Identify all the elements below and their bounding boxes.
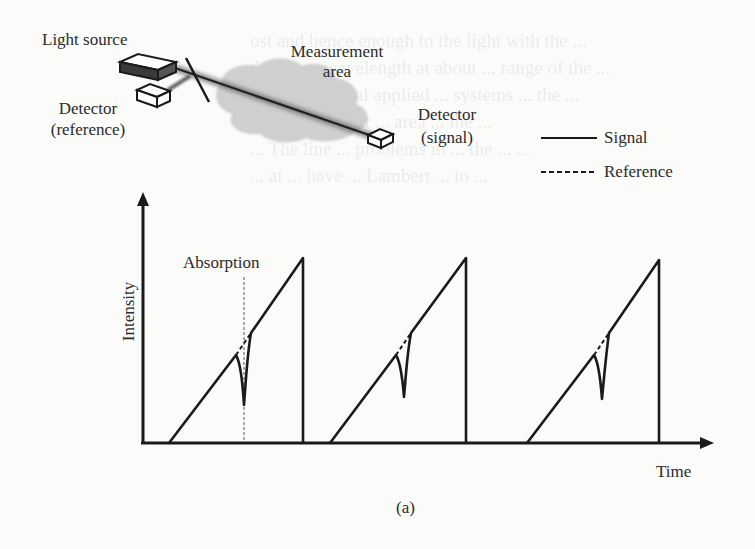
measurement-area-label-2: area [272, 62, 402, 81]
signal-cycle-2 [330, 258, 466, 443]
y-axis-arrow-icon [137, 192, 149, 206]
x-axis-arrow-icon [700, 437, 714, 449]
measurement-area-label-1: Measurement [272, 42, 402, 61]
x-axis-label: Time [656, 462, 691, 481]
signal-detector-icon [368, 129, 393, 148]
detector-signal-label-2: (signal) [402, 128, 492, 147]
detector-reference-label-2: (reference) [28, 120, 148, 139]
signal-cycle-1 [169, 258, 303, 443]
detector-reference-label-1: Detector [28, 99, 148, 118]
signal-cycle-3 [527, 260, 659, 443]
absorption-label: Absorption [183, 253, 260, 272]
plot-axes [137, 192, 714, 449]
legend-reference-label: Reference [604, 162, 673, 181]
figure-caption: (a) [396, 498, 415, 517]
detector-signal-label-1: Detector [402, 105, 492, 124]
light-source-icon [120, 54, 176, 80]
legend [541, 138, 597, 172]
legend-signal-label: Signal [604, 128, 647, 147]
sawtooth-signal [169, 258, 659, 443]
y-axis-label: Intensity [119, 272, 138, 352]
light-source-label: Light source [42, 30, 127, 49]
figure-canvas [0, 0, 755, 549]
